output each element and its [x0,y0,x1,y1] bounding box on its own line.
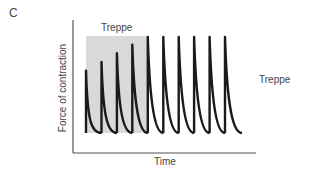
side-label: Treppe [259,74,290,85]
x-axis-label: Time [154,156,176,167]
treppe-diagram [0,0,310,174]
shaded-region-label: Treppe [101,22,132,33]
y-axis-label: Force of contraction [57,44,68,132]
